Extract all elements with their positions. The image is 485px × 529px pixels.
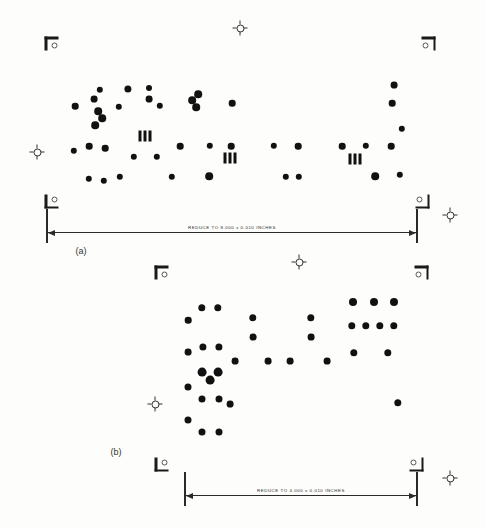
pattern-dot <box>214 368 223 377</box>
crosshair-tick-n <box>154 397 156 401</box>
corner-ring-icon <box>162 460 168 466</box>
crosshair-tick-e <box>454 477 458 479</box>
pattern-dot <box>185 417 192 424</box>
figure-page: REDUCE TO 8.000 ± 0.010 INCHES(a)REDUCE … <box>0 0 485 529</box>
pattern-dot <box>287 358 294 365</box>
pattern-dot <box>376 322 383 329</box>
panel-b: REDUCE TO 4.000 ± 0.010 INCHES(b) <box>0 0 485 529</box>
corner-bar-vertical <box>426 266 429 280</box>
registration-target-left <box>148 397 163 412</box>
pattern-dot <box>249 314 256 321</box>
pattern-dot <box>390 298 398 306</box>
crosshair-tick-w <box>148 403 152 405</box>
pattern-dot <box>307 314 314 321</box>
pattern-dot <box>324 358 331 365</box>
registration-target-right <box>443 471 458 486</box>
corner-ring-icon <box>162 272 168 278</box>
pattern-dot <box>216 396 223 403</box>
corner-bar-vertical <box>155 458 158 472</box>
dimension-callout: REDUCE TO 4.000 ± 0.010 INCHES <box>184 472 418 506</box>
dimension-arrow-right <box>409 493 416 499</box>
corner-ring-icon <box>411 460 417 466</box>
pattern-dot <box>227 401 234 408</box>
panel-caption: (b) <box>111 447 122 457</box>
pattern-dot <box>265 358 272 365</box>
pattern-dot <box>199 429 206 436</box>
crosshair-tick-s <box>154 408 156 412</box>
pattern-dot <box>384 349 391 356</box>
pattern-dot <box>185 317 192 324</box>
pattern-dot <box>198 304 205 311</box>
pattern-dot <box>185 349 192 356</box>
pattern-dot <box>232 358 239 365</box>
corner-bar-vertical <box>155 266 158 280</box>
pattern-dot <box>394 399 401 406</box>
corner-mark-bottom-left <box>155 455 172 472</box>
crosshair-tick-n <box>449 471 451 475</box>
corner-mark-top-left <box>155 266 172 283</box>
dimension-label: REDUCE TO 4.000 ± 0.010 INCHES <box>252 488 350 493</box>
corner-mark-bottom-right <box>407 455 424 472</box>
dimension-witness-left <box>184 472 186 506</box>
pattern-dot <box>214 304 221 311</box>
pattern-dot <box>198 368 207 377</box>
pattern-dot <box>349 298 357 306</box>
crosshair-tick-s <box>449 482 451 486</box>
corner-bar-vertical <box>421 458 424 472</box>
crosshair-tick-w <box>443 477 447 479</box>
crosshair-tick-e <box>159 403 163 405</box>
pattern-dot <box>390 322 397 329</box>
pattern-dot <box>250 334 257 341</box>
pattern-dot <box>348 322 355 329</box>
pattern-dot <box>185 384 192 391</box>
pattern-dot <box>199 396 206 403</box>
dimension-witness-right <box>416 472 418 506</box>
pattern-dot <box>308 334 315 341</box>
corner-mark-top-right <box>412 266 429 283</box>
pattern-dot <box>215 343 222 350</box>
dimension-arrow-left <box>186 493 193 499</box>
dimension-line <box>186 495 416 496</box>
pattern-dot <box>216 429 223 436</box>
corner-ring-icon <box>416 272 422 278</box>
pattern-dot <box>206 376 215 385</box>
pattern-dot <box>362 322 369 329</box>
pattern-dot <box>199 343 206 350</box>
pattern-dot <box>370 298 378 306</box>
figure-canvas: REDUCE TO 8.000 ± 0.010 INCHES(a)REDUCE … <box>0 0 485 529</box>
pattern-dot <box>350 349 357 356</box>
